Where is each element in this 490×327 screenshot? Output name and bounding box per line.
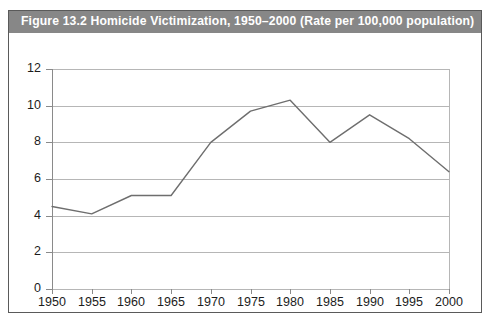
figure-title: Figure 13.2 Homicide Victimization, 1950… [21, 14, 474, 28]
figure-title-bar: Figure 13.2 Homicide Victimization, 1950… [9, 11, 481, 33]
chart-series-layer [9, 33, 481, 312]
figure-container: Figure 13.2 Homicide Victimization, 1950… [8, 10, 482, 313]
homicide-rate-line [9, 33, 481, 312]
chart-plot-area: 0246810121950195519601965197019751980198… [9, 33, 481, 312]
